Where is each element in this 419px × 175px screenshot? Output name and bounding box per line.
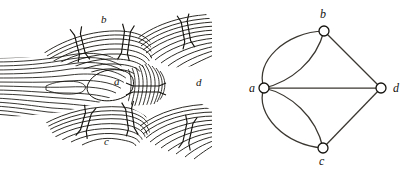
map-label-a: a	[114, 76, 120, 87]
map-label-c: c	[104, 136, 109, 147]
konigsberg-multigraph: a b c d	[212, 0, 419, 175]
edge-a-c-2[interactable]	[264, 88, 323, 148]
multigraph-svg	[212, 0, 419, 175]
node-label-a: a	[249, 82, 255, 94]
bridge-a-c-1	[76, 105, 96, 139]
node-b[interactable]	[319, 26, 329, 36]
node-label-b: b	[320, 8, 326, 20]
river-map-svg	[0, 0, 212, 175]
konigsberg-figure: b a d c	[0, 0, 419, 175]
graph-edges-group	[262, 31, 381, 148]
node-c[interactable]	[318, 143, 328, 153]
map-label-b: b	[101, 14, 107, 25]
node-label-c: c	[319, 155, 324, 167]
graph-nodes-group	[259, 26, 386, 153]
edge-a-c-1[interactable]	[262, 88, 323, 148]
edge-c-d[interactable]	[323, 88, 381, 148]
edge-a-b-2[interactable]	[264, 31, 324, 88]
edge-b-d[interactable]	[324, 31, 381, 88]
map-label-d: d	[196, 77, 202, 88]
node-label-d: d	[393, 82, 399, 94]
node-a[interactable]	[259, 83, 269, 93]
river-west-arm	[0, 49, 127, 121]
node-d[interactable]	[376, 83, 386, 93]
land-mass-c	[44, 107, 151, 146]
konigsberg-river-map: b a d c	[0, 0, 212, 175]
edge-a-b-1[interactable]	[262, 31, 324, 88]
land-mass-southeast	[140, 104, 212, 159]
